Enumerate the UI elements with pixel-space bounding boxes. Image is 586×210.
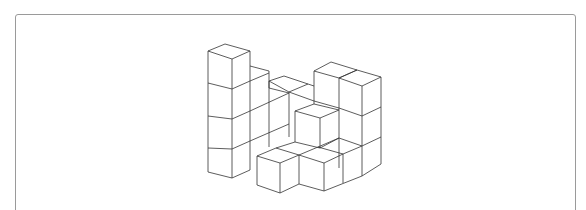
cube-stack-diagram — [0, 0, 586, 210]
middle-step-cube — [295, 104, 339, 148]
tall-column — [208, 44, 250, 178]
right-back-block — [314, 62, 381, 176]
front-bottom-row — [257, 138, 362, 193]
